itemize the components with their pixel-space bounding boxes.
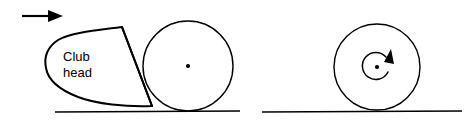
arrow-head (48, 10, 63, 22)
right-arrow-icon (22, 10, 63, 22)
ground-line-icon (262, 111, 462, 112)
club-face-line (122, 27, 152, 106)
rotation-arrow-icon (362, 49, 394, 79)
physics-diagram: Club head (0, 0, 472, 126)
club-head-label-line1: Club (63, 49, 90, 64)
diagram-canvas: Club head (0, 0, 472, 126)
impact-panel: Club head (22, 10, 240, 112)
ground-line-icon (55, 111, 240, 112)
center-dot-icon (186, 64, 190, 68)
spin-panel (262, 24, 462, 112)
center-dot-icon (375, 65, 379, 69)
club-head-label-line2: head (63, 65, 92, 80)
